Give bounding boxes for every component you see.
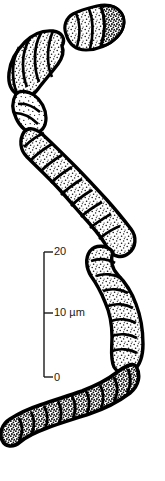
figure-root: 20 10 µm 0 bbox=[0, 0, 165, 481]
scale-tick-label-0: 0 bbox=[54, 372, 60, 383]
vertical-scale-bar bbox=[44, 252, 53, 377]
detached-cell-fragment bbox=[65, 5, 124, 50]
filament-segment-group-bottom bbox=[1, 365, 139, 446]
filament-segment-group-upper bbox=[9, 31, 64, 97]
organism-illustration bbox=[0, 0, 165, 481]
scale-tick-label-20: 20 bbox=[54, 246, 66, 257]
scale-tick-label-10: 10 µm bbox=[54, 307, 85, 318]
filament-segment-group-right bbox=[87, 246, 143, 373]
filament-segment-group-descending bbox=[21, 129, 135, 257]
main-filament bbox=[1, 31, 143, 446]
filament-segment-group-neck bbox=[13, 91, 46, 133]
